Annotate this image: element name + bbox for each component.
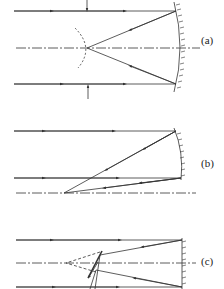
optics-diagram <box>0 0 224 289</box>
panel-a <box>14 0 200 99</box>
panel-label-b: (b) <box>201 157 214 169</box>
panel-label-a: (a) <box>201 34 213 46</box>
panel-b <box>14 128 196 193</box>
panel-label-c: (c) <box>201 255 213 267</box>
panel-c <box>16 238 196 289</box>
